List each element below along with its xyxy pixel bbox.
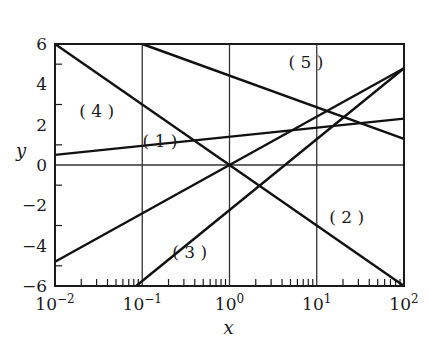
curve-label-3: ( 3 ) bbox=[172, 242, 207, 262]
x-tick-label: 10−1 bbox=[123, 292, 162, 314]
y-tick-label: 6 bbox=[36, 34, 47, 54]
curve-label-2: ( 2 ) bbox=[329, 207, 364, 227]
y-tick-label: −2 bbox=[22, 195, 47, 215]
curve-label-4: ( 4 ) bbox=[79, 101, 114, 121]
x-tick-label: 102 bbox=[389, 292, 418, 314]
minor-ticks bbox=[55, 64, 400, 286]
y-tick-label: 4 bbox=[36, 74, 47, 94]
y-tick-label: −4 bbox=[22, 236, 47, 256]
x-axis-ticks: 10−210−1100101102 bbox=[35, 292, 418, 314]
curve-label-5: ( 5 ) bbox=[288, 52, 323, 72]
series-line-5 bbox=[142, 44, 404, 139]
y-tick-label: 2 bbox=[36, 115, 47, 135]
curve-label-1: ( 1 ) bbox=[143, 131, 178, 151]
x-tick-label: 100 bbox=[215, 292, 244, 314]
y-tick-label: 0 bbox=[36, 155, 47, 175]
y-axis-label: y bbox=[15, 140, 27, 161]
chart: 6420−2−4−6 10−210−1100101102 ( 1 )( 2 )(… bbox=[0, 0, 431, 358]
y-tick-label: −6 bbox=[22, 276, 47, 296]
curve-labels: ( 1 )( 2 )( 3 )( 4 )( 5 ) bbox=[79, 52, 364, 262]
x-tick-label: 10−2 bbox=[35, 292, 74, 314]
x-tick-label: 101 bbox=[302, 292, 331, 314]
x-axis-label: x bbox=[223, 317, 233, 338]
y-axis-ticks: 6420−2−4−6 bbox=[22, 34, 47, 296]
